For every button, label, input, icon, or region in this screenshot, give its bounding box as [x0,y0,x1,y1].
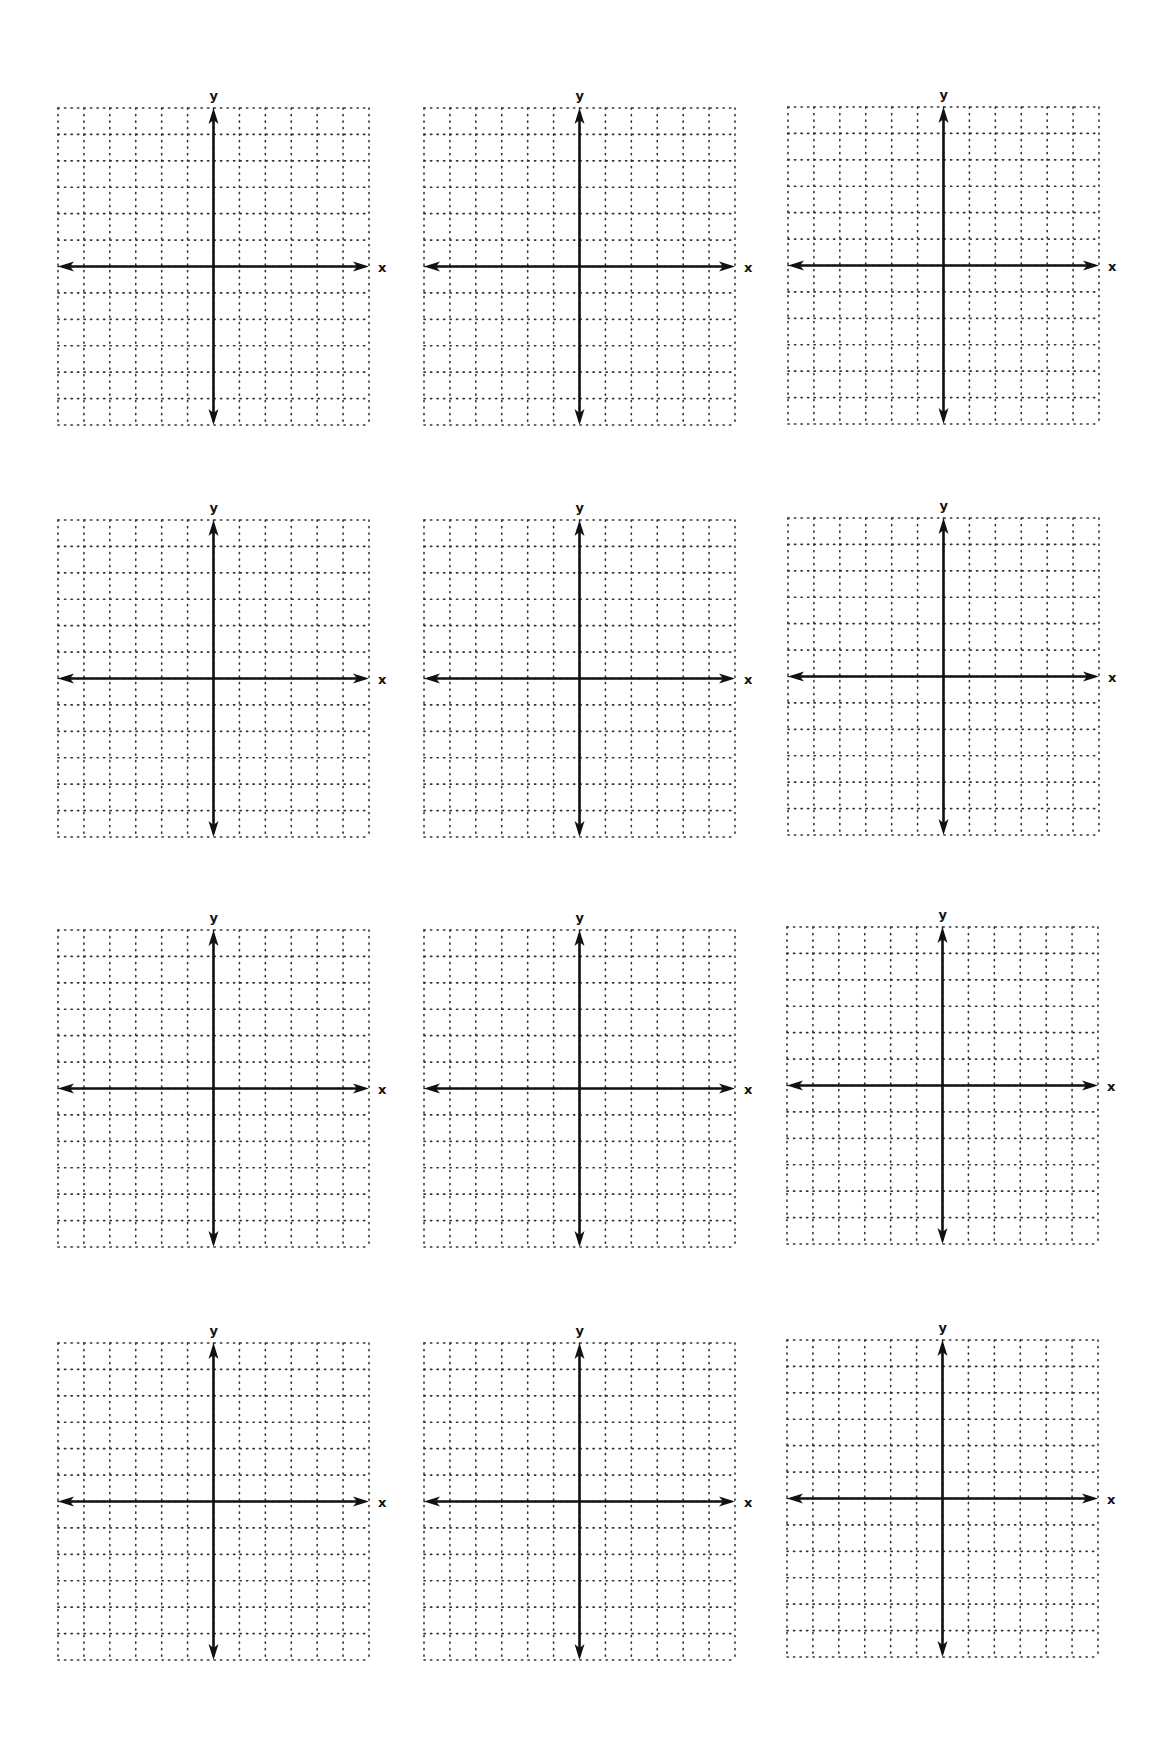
x-axis-label: x [1108,259,1117,274]
y-axis: y [575,88,585,425]
y-axis-label: y [210,500,219,515]
y-axis: y [575,910,585,1247]
x-axis: x [58,1495,387,1510]
x-axis: x [424,260,753,275]
x-axis-label: x [1107,1492,1116,1507]
y-axis: y [939,87,949,424]
x-axis: x [788,670,1117,685]
y-axis-label: y [940,498,949,513]
y-axis-label: y [576,88,585,103]
y-axis: y [938,1320,948,1657]
x-axis: x [58,260,387,275]
y-axis-label: y [940,87,949,102]
coordinate-plane-3: x y [788,107,1099,424]
x-axis-label: x [1108,670,1117,685]
x-axis-label: x [378,260,387,275]
y-axis-label: y [939,1320,948,1335]
coordinate-plane-7: x y [58,930,369,1247]
y-axis-label: y [210,88,219,103]
y-axis: y [938,907,948,1244]
x-axis-label: x [378,672,387,687]
y-axis-label: y [210,910,219,925]
y-axis: y [575,1323,585,1660]
y-axis: y [209,910,219,1247]
coordinate-plane-11: x y [424,1343,735,1660]
coordinate-plane-4: x y [58,520,369,837]
x-axis-label: x [378,1495,387,1510]
x-axis: x [58,672,387,687]
x-axis: x [788,259,1117,274]
y-axis-label: y [939,907,948,922]
y-axis: y [209,88,219,425]
coordinate-plane-1: x y [58,108,369,425]
y-axis-label: y [576,1323,585,1338]
coordinate-plane-5: x y [424,520,735,837]
x-axis-label: x [744,1495,753,1510]
x-axis: x [424,1082,753,1097]
x-axis: x [787,1492,1116,1507]
x-axis: x [424,672,753,687]
x-axis: x [424,1495,753,1510]
coordinate-plane-6: x y [788,518,1099,835]
y-axis-label: y [576,910,585,925]
y-axis: y [209,1323,219,1660]
y-axis: y [939,498,949,835]
coordinate-plane-10: x y [58,1343,369,1660]
coordinate-plane-9: x y [787,927,1098,1244]
y-axis-label: y [576,500,585,515]
x-axis: x [58,1082,387,1097]
coordinate-plane-12: x y [787,1340,1098,1657]
x-axis: x [787,1079,1116,1094]
x-axis-label: x [744,260,753,275]
y-axis: y [575,500,585,837]
x-axis-label: x [1107,1079,1116,1094]
x-axis-label: x [378,1082,387,1097]
x-axis-label: x [744,672,753,687]
x-axis-label: x [744,1082,753,1097]
worksheet-page: x y x y [0,0,1168,1744]
y-axis: y [209,500,219,837]
coordinate-plane-2: x y [424,108,735,425]
y-axis-label: y [210,1323,219,1338]
coordinate-plane-8: x y [424,930,735,1247]
